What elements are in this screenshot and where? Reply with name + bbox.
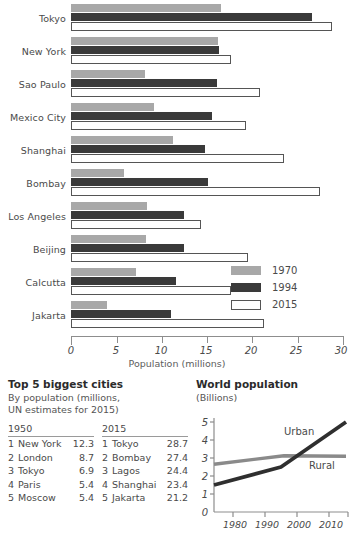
bar-2015 <box>71 253 248 262</box>
rank: 5 <box>102 492 112 505</box>
y-axis-tick-label: 3 <box>196 453 208 464</box>
bar-chart-legend: 1970 1994 2015 <box>231 262 297 313</box>
axis-tick-label: 15 <box>200 345 213 356</box>
axis-tick-label: 25 <box>290 345 303 356</box>
y-axis-tick-label: 2 <box>196 471 208 482</box>
bar-row: Tokyo <box>0 4 354 32</box>
y-axis-tick-label: 0 <box>196 507 208 518</box>
city-name: New York <box>18 438 73 451</box>
top-cities-tables: 1950 1 New York 12.3 2 London 8.7 3 Toky… <box>8 423 188 505</box>
axis-tick <box>298 337 299 343</box>
table-row: 5 Jakarta 21.2 <box>102 492 188 505</box>
city-population-bar-chart: Tokyo New York Sao Paulo M <box>0 0 354 372</box>
bar-2015 <box>71 187 320 196</box>
table-1950-header: 1950 <box>8 423 94 437</box>
bar-2015 <box>71 22 332 31</box>
table-row: 3 Lagos 24.4 <box>102 465 188 478</box>
legend-label-2015: 2015 <box>272 299 297 310</box>
bar-category-label: Shanghai <box>0 136 66 164</box>
x-axis-tick-label: 2000 <box>287 519 311 530</box>
bar-1970 <box>71 235 146 243</box>
city-value: 12.3 <box>73 438 94 451</box>
city-name: Shanghai <box>112 479 167 492</box>
top-cities-panel: Top 5 biggest cities By population (mill… <box>8 378 188 415</box>
urban-line <box>214 422 346 485</box>
legend-label-1970: 1970 <box>272 265 297 276</box>
legend-item-1994: 1994 <box>231 279 297 296</box>
table-2015: 2015 1 Tokyo 28.7 2 Bombay 27.4 3 Lagos … <box>102 423 188 505</box>
bar-category-label: Los Angeles <box>0 202 66 230</box>
rank: 5 <box>8 492 18 505</box>
bar-row: Jakarta <box>0 301 354 329</box>
axis-tick-label: 20 <box>245 345 258 356</box>
table-1950: 1950 1 New York 12.3 2 London 8.7 3 Toky… <box>8 423 94 505</box>
rank: 3 <box>102 465 112 478</box>
population-infographic: Tokyo New York Sao Paulo M <box>0 0 354 543</box>
top-cities-subtitle: By population (millions, UN estimates fo… <box>8 392 188 415</box>
bar-1970 <box>71 301 107 309</box>
table-row: 1 New York 12.3 <box>8 438 94 451</box>
bar-row: New York <box>0 37 354 65</box>
bar-1994 <box>71 79 217 87</box>
legend-swatch-2015-icon <box>231 300 261 310</box>
city-name: Jakarta <box>112 492 167 505</box>
legend-swatch-1994-icon <box>231 283 261 292</box>
table-2015-header: 2015 <box>102 423 188 437</box>
city-name: Paris <box>18 479 79 492</box>
city-value: 5.4 <box>79 479 94 492</box>
axis-tick <box>207 337 208 343</box>
axis-tick-label: 5 <box>113 345 119 356</box>
bar-chart-x-axis <box>71 336 344 345</box>
bar-category-label: Sao Paulo <box>0 70 66 98</box>
x-axis-title: Population (millions) <box>0 358 354 369</box>
table-row: 4 Shanghai 23.4 <box>102 479 188 492</box>
bar-1994 <box>71 112 212 120</box>
x-axis-tick-label: 1990 <box>255 519 279 530</box>
axis-tick <box>252 337 253 343</box>
world-population-title: World population <box>196 378 354 390</box>
world-population-subtitle: (Billions) <box>196 392 354 404</box>
city-name: Lagos <box>112 465 167 478</box>
bar-row: Sao Paulo <box>0 70 354 98</box>
axis-tick <box>162 337 163 343</box>
bar-row: Shanghai <box>0 136 354 164</box>
bar-category-label: Beijing <box>0 235 66 263</box>
bar-1994 <box>71 13 312 21</box>
city-value: 6.9 <box>79 465 94 478</box>
bar-1994 <box>71 277 176 285</box>
table-row: 2 London 8.7 <box>8 452 94 465</box>
top-cities-subtitle-line1: By population (millions, <box>8 392 188 404</box>
bar-1970 <box>71 4 221 12</box>
city-value: 8.7 <box>79 452 94 465</box>
bar-row: Beijing <box>0 235 354 263</box>
bar-category-label: Tokyo <box>0 4 66 32</box>
y-axis-tick-label: 1 <box>196 489 208 500</box>
urban-series-label: Urban <box>284 426 314 437</box>
rank: 2 <box>8 452 18 465</box>
bar-category-label: Bombay <box>0 169 66 197</box>
table-row: 5 Moscow 5.4 <box>8 492 94 505</box>
bar-row: Los Angeles <box>0 202 354 230</box>
legend-item-1970: 1970 <box>231 262 297 279</box>
city-name: Tokyo <box>18 465 79 478</box>
bar-2015 <box>71 154 284 163</box>
city-value: 28.7 <box>167 438 188 451</box>
table-row: 4 Paris 5.4 <box>8 479 94 492</box>
bar-category-label: Mexico City <box>0 103 66 131</box>
bar-1994 <box>71 211 184 219</box>
bar-1994 <box>71 178 208 186</box>
rank: 4 <box>102 479 112 492</box>
city-name: London <box>18 452 79 465</box>
city-name: Moscow <box>18 492 79 505</box>
bar-1970 <box>71 268 136 276</box>
x-axis-tick-label: 1980 <box>223 519 247 530</box>
legend-label-1994: 1994 <box>272 282 297 293</box>
city-value: 23.4 <box>167 479 188 492</box>
rank: 4 <box>8 479 18 492</box>
city-value: 27.4 <box>167 452 188 465</box>
rank: 1 <box>102 438 112 451</box>
bar-2015 <box>71 88 260 97</box>
bar-1994 <box>71 310 171 318</box>
bar-1994 <box>71 145 205 153</box>
city-name: Bombay <box>112 452 167 465</box>
